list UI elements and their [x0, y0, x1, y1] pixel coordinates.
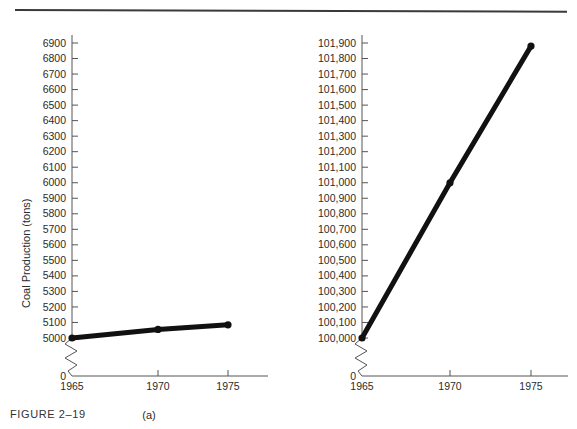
chart-a-data-point [154, 326, 161, 333]
chart-b-y-tick-label: 101,900 [318, 37, 356, 49]
chart-b-y-tick-label: 100,100 [318, 316, 356, 328]
chart-b-y-tick-label: 100,000 [318, 332, 356, 344]
chart-b-y-tick-label: 101,100 [318, 161, 356, 173]
chart-a-y-tick-label: 5900 [43, 192, 67, 204]
chart-b-axis-break [355, 338, 367, 376]
figure-caption: FIGURE 2–19 [10, 408, 86, 420]
chart-a-y-tick-label: 5300 [43, 285, 67, 297]
chart-a-y-axis-label: Coal Production (tons) [20, 199, 32, 308]
chart-a-y-tick-label: 5700 [43, 223, 67, 235]
chart-a-y-tick-label: 6300 [43, 130, 67, 142]
chart-a-y-tick-label: 6500 [43, 99, 67, 111]
chart-b-y-tick-label: 100,700 [318, 223, 356, 235]
chart-a-axis-break [65, 338, 77, 376]
chart-a-y-tick-label: 6900 [43, 37, 67, 49]
chart-a-y-tick-label: 6000 [43, 176, 67, 188]
chart-b-y-tick-label: 100,400 [318, 269, 356, 281]
chart-b-y-tick-label: 101,300 [318, 130, 356, 142]
chart-a-y-tick-label: 5600 [43, 238, 67, 250]
chart-a-y-tick-label: 6800 [43, 52, 67, 64]
chart-b-x-tick-label: 1975 [519, 380, 543, 392]
chart-a-y-tick-label: 6100 [43, 161, 67, 173]
chart-b-data-point [358, 334, 365, 341]
chart-b-y-tick-label: 101,200 [318, 145, 356, 157]
chart-b-x-tick-label: 1965 [350, 380, 374, 392]
header-rule [15, 9, 567, 13]
chart-b-y-tick-label: 100,200 [318, 301, 356, 313]
chart-panel-a: 6900680067006600650064006300620061006000… [0, 18, 290, 418]
chart-a-y-tick-label: 5000 [43, 332, 67, 344]
chart-b-series-line [362, 46, 531, 338]
chart-panel-b: 101,900101,800101,700101,600101,500101,4… [290, 18, 577, 418]
chart-a-y-tick-label: 5400 [43, 269, 67, 281]
chart-b-y-tick-label: 101,600 [318, 83, 356, 95]
chart-b-canvas: 101,900101,800101,700101,600101,500101,4… [290, 18, 577, 418]
chart-a-y-tick-label: 6700 [43, 68, 67, 80]
chart-b-y-tick-label: 100,900 [318, 192, 356, 204]
chart-b-y-tick-label: 100,500 [318, 254, 356, 266]
chart-a-y-tick-label: 6400 [43, 114, 67, 126]
chart-a-data-point [224, 321, 231, 328]
chart-a-series-line [72, 325, 228, 338]
chart-b-y-tick-label: 101,500 [318, 99, 356, 111]
chart-b-y-tick-label: 101,700 [318, 68, 356, 80]
chart-b-data-point [446, 179, 453, 186]
chart-a-canvas: 6900680067006600650064006300620061006000… [0, 18, 290, 418]
chart-a-y-tick-label: 5200 [43, 301, 67, 313]
chart-a-x-tick-label: 1970 [146, 380, 170, 392]
chart-a-caption: (a) [119, 409, 179, 421]
chart-b-y-tick-label: 100,600 [318, 238, 356, 250]
chart-b-y-tick-label: 101,800 [318, 52, 356, 64]
chart-a-y-tick-label: 5100 [43, 316, 67, 328]
chart-a-y-tick-label: 5500 [43, 254, 67, 266]
chart-a-y-tick-label: 6200 [43, 145, 67, 157]
chart-a-y-tick-label: 6600 [43, 83, 67, 95]
chart-a-data-point [68, 334, 75, 341]
chart-b-y-tick-label: 100,800 [318, 207, 356, 219]
chart-b-data-point [527, 43, 534, 50]
chart-a-y-tick-label: 5800 [43, 207, 67, 219]
chart-b-y-tick-label: 101,000 [318, 176, 356, 188]
chart-a-x-tick-label: 1965 [60, 380, 84, 392]
chart-a-x-tick-label: 1975 [216, 380, 240, 392]
chart-b-x-tick-label: 1970 [438, 380, 462, 392]
chart-b-y-tick-label: 100,300 [318, 285, 356, 297]
chart-b-y-tick-label: 101,400 [318, 114, 356, 126]
